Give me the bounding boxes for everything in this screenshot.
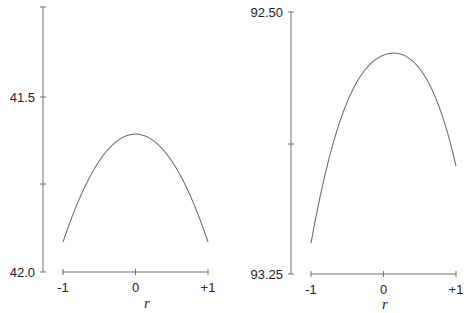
right-y-label-bottom: 93.25 (250, 267, 283, 282)
left-chart: 41.5 42.0 -1 0 +1 r (10, 7, 216, 311)
right-x-label-max: +1 (449, 282, 464, 297)
left-curve (63, 134, 208, 242)
right-y-label-top: 92.50 (250, 5, 283, 20)
right-x-label-min: -1 (305, 282, 317, 297)
left-x-label-mid: 0 (132, 280, 139, 295)
left-y-label-bottom: 42.0 (10, 265, 35, 280)
right-x-title: r (382, 296, 388, 312)
left-x-label-max: +1 (201, 280, 216, 295)
left-y-label-top: 41.5 (10, 90, 35, 105)
right-curve (311, 53, 456, 243)
left-x-title: r (144, 295, 150, 311)
right-chart: 92.50 93.25 -1 0 +1 r (250, 5, 463, 312)
figure: 41.5 42.0 -1 0 +1 r 92.50 93.25 -1 0 +1 … (0, 0, 466, 313)
right-x-label-mid: 0 (380, 282, 387, 297)
left-x-label-min: -1 (57, 280, 69, 295)
